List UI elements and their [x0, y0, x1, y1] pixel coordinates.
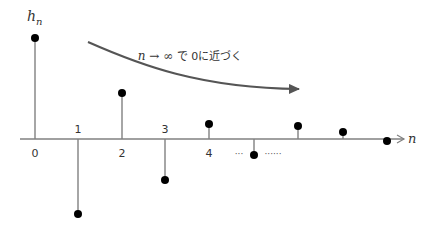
marker-1 — [74, 210, 82, 218]
ellipsis-right: ······ — [264, 149, 281, 159]
tick-label-2: 2 — [119, 147, 126, 160]
marker-7 — [339, 128, 347, 136]
tick-label-1: 1 — [75, 123, 82, 136]
marker-2 — [118, 89, 126, 97]
marker-8 — [383, 137, 391, 145]
x-axis-label: n — [408, 131, 416, 146]
marker-5 — [250, 151, 258, 159]
marker-4 — [205, 120, 213, 128]
ellipsis-left: ··· — [235, 149, 244, 159]
tick-label-4: 4 — [206, 147, 213, 160]
marker-6 — [294, 122, 302, 130]
marker-3 — [161, 176, 169, 184]
marker-0 — [31, 34, 39, 42]
decay-annotation: n → ∞ で 0に近づく — [138, 49, 242, 63]
tick-label-0: 0 — [32, 147, 39, 160]
stem-plot: n hn 0 1 2 3 4 ··· ······ n → ∞ で 0に近づく — [0, 0, 435, 232]
y-axis-label: hn — [27, 8, 42, 27]
tick-label-3: 3 — [162, 123, 169, 136]
